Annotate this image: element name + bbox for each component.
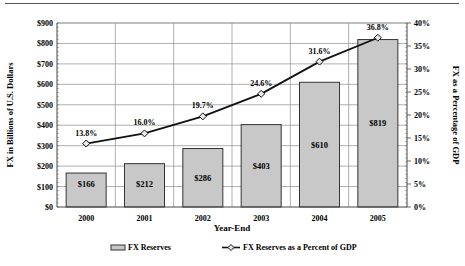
y-tick-label: $300 [37, 142, 53, 151]
line-value-label: 13.8% [75, 129, 97, 138]
y2-tick-label: 10% [414, 157, 430, 166]
line-value-label: 24.6% [250, 79, 272, 88]
diamond-marker-icon [258, 90, 265, 97]
y2-tick-label: 0% [414, 203, 426, 212]
y2-tick-label: 15% [414, 134, 430, 143]
x-tick-label: 2002 [195, 214, 211, 223]
legend-diamond-icon [228, 245, 234, 251]
y2-tick-label: 30% [414, 65, 430, 74]
y-tick-label: $200 [37, 162, 53, 171]
y2-tick-label: 25% [414, 88, 430, 97]
line-value-label: 16.0% [134, 118, 156, 127]
line-value-label: 31.6% [309, 47, 331, 56]
legend-line-label: FX Reserves as a Percent of GDP [243, 243, 357, 252]
y2-tick-label: 5% [414, 180, 426, 189]
legend-bar-swatch [111, 245, 125, 250]
y-tick-label: $900 [37, 19, 53, 28]
y-tick-label: $800 [37, 39, 53, 48]
diamond-marker-icon [141, 130, 148, 137]
line-value-label: 36.8% [367, 23, 389, 32]
y-tick-label: $700 [37, 60, 53, 69]
bar-value-label: $166 [78, 179, 95, 189]
legend-bar-label: FX Reserves [128, 243, 171, 252]
y2-tick-label: 40% [414, 19, 430, 28]
bar-value-label: $212 [136, 179, 153, 189]
y2-tick-label: 20% [414, 111, 430, 120]
bar-value-label: $403 [253, 161, 270, 171]
gridlines [57, 23, 407, 207]
y-tick-label: $600 [37, 80, 53, 89]
y-tick-label: $500 [37, 101, 53, 110]
y-tick-label: $100 [37, 183, 53, 192]
bar-value-label: $819 [369, 118, 386, 128]
fx-reserves-chart: $166$212$286$403$610$819 13.8%16.0%19.7%… [0, 0, 465, 266]
bar-value-label: $610 [311, 140, 328, 150]
x-tick-label: 2001 [137, 214, 153, 223]
y-tick-label: $400 [37, 121, 53, 130]
x-tick-label: 2003 [253, 214, 269, 223]
diamond-marker-icon [199, 113, 206, 120]
y-axis-title: FX in Billions of U.S. Dollars [5, 62, 15, 168]
x-tick-label: 2005 [370, 214, 386, 223]
y2-tick-label: 35% [414, 42, 430, 51]
x-tick-label: 2000 [78, 214, 94, 223]
bar-value-label: $286 [194, 173, 211, 183]
x-tick-label: 2004 [312, 214, 328, 223]
y-tick-label: $0 [45, 203, 53, 212]
legend: FX Reserves FX Reserves as a Percent of … [111, 243, 357, 252]
line-value-label: 19.7% [192, 101, 214, 110]
y2-axis-title: FX as a Percentage of GDP [451, 66, 461, 165]
x-axis-title: Year-End [214, 223, 251, 233]
